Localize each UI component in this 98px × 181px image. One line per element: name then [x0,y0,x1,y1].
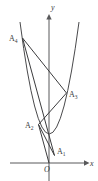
point-sub-a2: 2 [31,125,34,131]
point-label-a4: A4 [9,34,18,44]
segment-a4-a1 [23,38,55,156]
point-sub-a4: 4 [15,38,18,44]
point-sub-a3: 3 [75,94,78,100]
parabola-figure: A4 A3 A2 A1 O x y [0,0,98,181]
segment-a4-a3 [23,38,67,93]
x-axis-label: x [89,159,94,168]
figure-canvas: A4 A3 A2 A1 O x y [0,0,98,181]
segment-a2-a1 [39,125,55,156]
point-label-a3: A3 [69,90,78,100]
y-axis-arrow-icon [46,14,51,20]
origin-label: O [44,165,50,174]
x-axis-arrow-icon [84,160,90,166]
y-axis-label: y [50,3,55,12]
point-label-a1: A1 [57,147,66,157]
point-sub-a1: 1 [63,151,66,157]
point-label-a2: A2 [25,121,34,131]
segment-a2-a3 [39,93,67,125]
